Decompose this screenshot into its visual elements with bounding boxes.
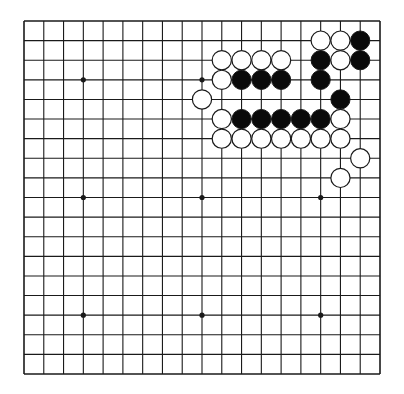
star-point: [81, 195, 86, 200]
white-stone: [192, 90, 211, 109]
star-point: [199, 195, 204, 200]
white-stone: [331, 51, 350, 70]
black-stone: [291, 109, 310, 128]
white-stone: [331, 168, 350, 187]
black-stone: [252, 109, 271, 128]
black-stone: [272, 109, 291, 128]
star-point: [81, 77, 86, 82]
star-point: [81, 313, 86, 318]
black-stone: [351, 51, 370, 70]
white-stone: [252, 129, 271, 148]
black-stone: [232, 70, 251, 89]
black-stone: [252, 70, 271, 89]
white-stone: [351, 149, 370, 168]
white-stone: [331, 109, 350, 128]
white-stone: [212, 129, 231, 148]
go-board: [0, 0, 404, 394]
black-stone: [331, 90, 350, 109]
white-stone: [212, 70, 231, 89]
black-stone: [272, 70, 291, 89]
white-stone: [331, 129, 350, 148]
white-stone: [232, 129, 251, 148]
black-stone: [311, 51, 330, 70]
star-point: [318, 313, 323, 318]
black-stone: [311, 70, 330, 89]
white-stone: [272, 51, 291, 70]
white-stone: [212, 109, 231, 128]
black-stone: [351, 31, 370, 50]
black-stone: [232, 109, 251, 128]
go-board-svg: [0, 0, 404, 394]
white-stone: [252, 51, 271, 70]
star-point: [199, 77, 204, 82]
white-stone: [272, 129, 291, 148]
white-stone: [331, 31, 350, 50]
star-point: [318, 195, 323, 200]
white-stone: [291, 129, 310, 148]
white-stone: [212, 51, 231, 70]
white-stone: [311, 31, 330, 50]
white-stone: [232, 51, 251, 70]
white-stone: [311, 129, 330, 148]
black-stone: [311, 109, 330, 128]
star-point: [199, 313, 204, 318]
